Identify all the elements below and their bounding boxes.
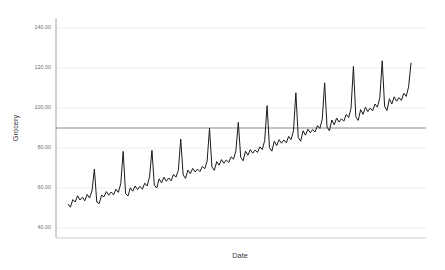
y-tick-label: 60.00 [38,184,52,190]
y-tick-label: 120.00 [35,64,52,70]
x-axis-title: Date [232,251,248,260]
data-series-line [68,61,411,207]
chart-container: 40.0060.0080.00100.00120.00140.00 Grocer… [0,0,445,270]
y-axis-title: Grocery [11,115,20,142]
y-axis-tick-labels: 40.0060.0080.00100.00120.00140.00 [35,24,52,230]
y-tick-label: 40.00 [38,224,52,230]
y-tick-label: 100.00 [35,104,52,110]
y-tick-label: 140.00 [35,24,52,30]
line-chart: 40.0060.0080.00100.00120.00140.00 Grocer… [0,0,445,270]
y-tick-label: 80.00 [38,144,52,150]
